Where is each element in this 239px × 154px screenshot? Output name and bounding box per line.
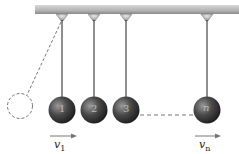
displaced-ball-dashed [8, 94, 33, 119]
pivot-mounts [56, 14, 213, 21]
displaced-string-dashed [27, 22, 61, 95]
newtons-cradle-diagram [0, 0, 239, 154]
ball-n-label: n [203, 102, 209, 113]
velocity-subscript: n [205, 144, 210, 153]
velocity-vn-label: vn [199, 138, 210, 153]
strings [62, 20, 207, 97]
velocity-v1-label: v1 [54, 138, 65, 153]
ball-3-label: 3 [123, 103, 129, 114]
ball-1-label: 1 [59, 103, 65, 114]
ball-2-label: 2 [91, 103, 97, 114]
velocity-subscript: 1 [60, 144, 65, 153]
ceiling-bar [35, 5, 239, 14]
